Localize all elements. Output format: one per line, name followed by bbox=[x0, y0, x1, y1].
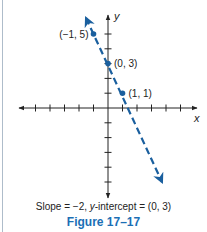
caption-suffix: -intercept = (0, 3) bbox=[95, 201, 171, 212]
data-point-dot bbox=[105, 61, 111, 67]
data-point-label: (0, 3) bbox=[114, 58, 137, 69]
x-axis-label: x bbox=[193, 112, 200, 124]
caption-prefix: Slope = −2, bbox=[36, 201, 90, 212]
data-point-label: (1, 1) bbox=[129, 88, 152, 99]
data-point-label: (−1, 5) bbox=[59, 29, 88, 40]
coordinate-plane: x y (−1, 5)(0, 3)(1, 1) bbox=[0, 0, 207, 200]
data-points: (−1, 5)(0, 3)(1, 1) bbox=[59, 29, 152, 99]
chart-caption: Slope = −2, y-intercept = (0, 3) bbox=[0, 201, 207, 212]
data-point-dot bbox=[120, 90, 126, 96]
y-axis-label: y bbox=[113, 10, 121, 22]
data-point-dot bbox=[91, 31, 97, 37]
figure-title: Figure 17–17 bbox=[0, 215, 207, 229]
dashed-line-y-equals-minus-2x-plus-3 bbox=[86, 18, 162, 182]
